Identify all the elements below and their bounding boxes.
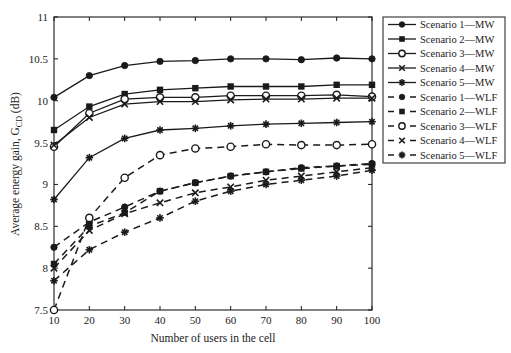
x-tick-label: 100 <box>364 314 381 326</box>
star-marker-icon <box>121 228 129 236</box>
x-tick-label: 90 <box>331 314 343 326</box>
open-circle-marker-icon <box>298 141 305 148</box>
y-tick-label: 8.5 <box>34 220 48 232</box>
legend-label: Scenario 5—WLF <box>420 150 497 161</box>
filled-circle-marker-icon <box>298 56 304 62</box>
x-tick-label: 10 <box>49 314 61 326</box>
series-1 <box>51 55 375 101</box>
x-tick-label: 40 <box>155 314 167 326</box>
star-marker-icon <box>333 119 341 127</box>
star-marker-icon <box>262 120 270 128</box>
open-circle-marker-icon <box>192 145 199 152</box>
x-tick-label: 60 <box>225 314 237 326</box>
series-line <box>54 168 372 268</box>
star-marker-icon <box>298 120 306 128</box>
star-marker-icon <box>227 122 235 130</box>
y-tick-label: 9.5 <box>34 137 48 149</box>
plot-area <box>54 17 372 310</box>
open-circle-marker-icon <box>262 141 269 148</box>
filled-circle-marker-icon <box>86 72 92 78</box>
star-marker-icon <box>227 187 235 195</box>
filled-square-marker-icon <box>263 83 269 89</box>
x-axis-title: Number of users in the cell <box>151 332 276 344</box>
y-tick-label: 8 <box>43 262 49 274</box>
open-circle-marker-icon <box>399 50 405 56</box>
y-tick-label: 7.5 <box>34 304 48 316</box>
star-marker-icon <box>121 135 129 143</box>
star-marker-icon <box>192 125 200 133</box>
filled-circle-marker-icon <box>333 55 339 61</box>
series-line <box>54 144 372 310</box>
filled-circle-marker-icon <box>399 94 405 100</box>
legend-label: Scenario 5—MW <box>420 77 494 88</box>
star-marker-icon <box>333 172 341 180</box>
open-circle-marker-icon <box>368 141 375 148</box>
filled-square-marker-icon <box>298 165 304 171</box>
filled-circle-marker-icon <box>399 22 405 28</box>
series-2 <box>51 82 375 134</box>
y-tick-label: 11 <box>37 11 48 23</box>
legend-label: Scenario 4—MW <box>420 63 494 74</box>
series-line <box>54 58 372 97</box>
star-marker-icon <box>399 152 406 159</box>
line-chart: 7.588.599.51010.511 10203040506070809010… <box>0 0 511 353</box>
filled-square-marker-icon <box>399 36 405 42</box>
x-tick-label: 50 <box>190 314 202 326</box>
plot-border <box>54 17 372 310</box>
series-line <box>54 170 372 281</box>
star-marker-icon <box>262 181 270 189</box>
star-marker-icon <box>86 246 94 254</box>
open-circle-marker-icon <box>227 143 234 150</box>
series-line <box>54 122 372 200</box>
x-tick-label: 30 <box>119 314 131 326</box>
legend: Scenario 1—MWScenario 2—MWScenario 3—MWS… <box>383 17 505 163</box>
series-line <box>54 164 372 264</box>
y-tick-label: 10.5 <box>29 53 49 65</box>
filled-square-marker-icon <box>192 85 198 91</box>
filled-square-marker-icon <box>298 83 304 89</box>
series-line <box>54 164 372 248</box>
filled-square-marker-icon <box>157 188 163 194</box>
x-tick-label: 70 <box>261 314 273 326</box>
filled-circle-marker-icon <box>369 56 375 62</box>
star-marker-icon <box>86 154 94 162</box>
open-circle-marker-icon <box>121 174 128 181</box>
star-marker-icon <box>50 196 58 204</box>
legend-label: Scenario 2—MW <box>420 34 494 45</box>
y-tick-label: 10 <box>37 95 49 107</box>
filled-circle-marker-icon <box>51 94 57 100</box>
filled-square-marker-icon <box>399 109 405 115</box>
x-axis: 102030405060708090100 <box>49 17 381 326</box>
filled-square-marker-icon <box>157 87 163 93</box>
star-marker-icon <box>50 277 58 285</box>
filled-square-marker-icon <box>227 173 233 179</box>
filled-square-marker-icon <box>263 169 269 175</box>
filled-square-marker-icon <box>333 82 339 88</box>
filled-circle-marker-icon <box>263 56 269 62</box>
open-circle-marker-icon <box>399 123 405 129</box>
open-circle-marker-icon <box>333 141 340 148</box>
filled-circle-marker-icon <box>157 58 163 64</box>
series-line <box>54 98 372 145</box>
y-axis-title: Average energy gain, GCD (dB) <box>9 92 24 236</box>
filled-square-marker-icon <box>192 180 198 186</box>
star-marker-icon <box>192 197 200 205</box>
y-axis: 7.588.599.51010.511 <box>29 11 372 316</box>
star-marker-icon <box>156 214 164 222</box>
legend-label: Scenario 2—WLF <box>420 106 497 117</box>
legend-label: Scenario 4—WLF <box>420 135 497 146</box>
open-circle-marker-icon <box>50 306 57 313</box>
filled-square-marker-icon <box>369 82 375 88</box>
filled-square-marker-icon <box>51 127 57 133</box>
star-marker-icon <box>298 176 306 184</box>
filled-circle-marker-icon <box>51 244 57 250</box>
legend-label: Scenario 3—MW <box>420 48 494 59</box>
filled-circle-marker-icon <box>121 204 127 210</box>
filled-circle-marker-icon <box>192 57 198 63</box>
series-7 <box>51 161 375 267</box>
filled-square-marker-icon <box>333 163 339 169</box>
star-marker-icon <box>156 126 164 134</box>
filled-circle-marker-icon <box>121 62 127 68</box>
x-tick-label: 20 <box>84 314 96 326</box>
open-circle-marker-icon <box>156 152 163 159</box>
